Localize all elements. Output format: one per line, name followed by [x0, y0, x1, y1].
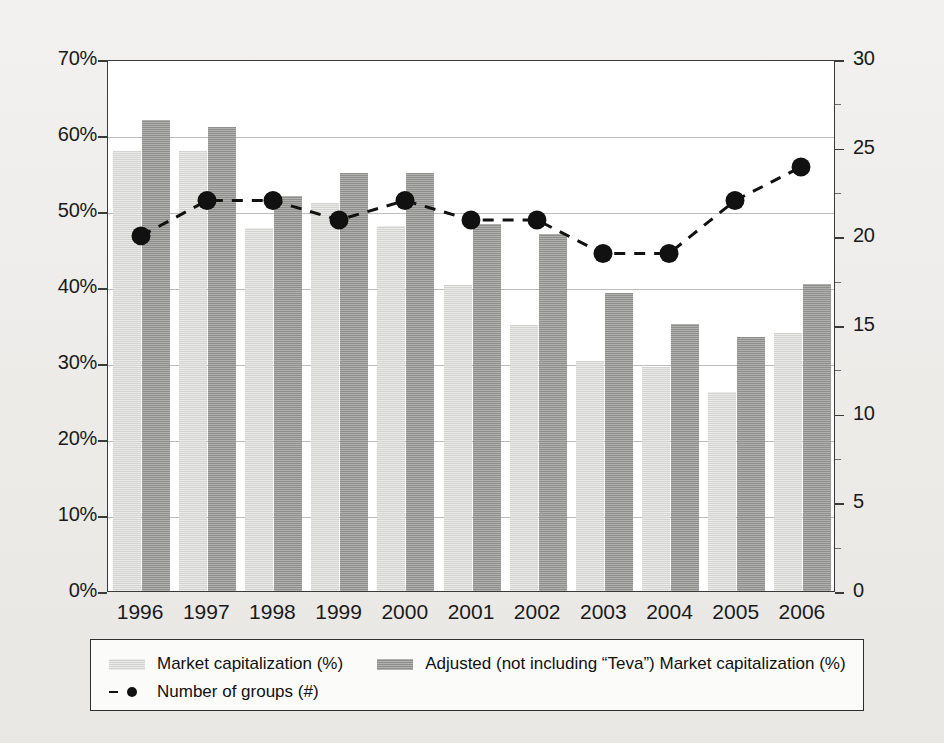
bar-1999-adjusted-market-cap — [340, 173, 368, 591]
right-axis-tick-mark — [835, 149, 844, 151]
legend-label-adjusted-market-capitalization: Adjusted (not including “Teva”) Market c… — [425, 654, 845, 674]
right-axis-minor-tick-mark — [835, 193, 841, 194]
legend-item-number-of-groups: Number of groups (#) — [109, 682, 319, 702]
bar-2003-market-cap — [576, 361, 604, 591]
line-marker-2005 — [726, 191, 745, 210]
bar-2000-adjusted-market-cap — [406, 173, 434, 591]
left-axis-tick-label: 30% — [11, 351, 97, 374]
line-marker-2004 — [660, 244, 679, 263]
x-axis-tick-label-1998: 1998 — [239, 600, 305, 624]
bar-1997-market-cap — [179, 151, 207, 591]
x-axis-tick-label-2003: 2003 — [570, 600, 636, 624]
bar-2003-adjusted-market-cap — [605, 293, 633, 591]
left-axis-tick-label: 10% — [11, 503, 97, 526]
right-axis-tick-mark — [835, 237, 844, 239]
chart-figure: 0%10%20%30%40%50%60%70% 051015202530 199… — [0, 0, 944, 743]
right-axis-tick-mark — [835, 592, 844, 594]
bar-2000-market-cap — [377, 226, 405, 591]
bar-2004-market-cap — [642, 367, 670, 591]
x-axis-tick-label-1997: 1997 — [173, 600, 239, 624]
bar-1997-adjusted-market-cap — [208, 127, 236, 591]
bar-1996-market-cap — [113, 151, 141, 591]
right-axis-tick-label: 15 — [853, 313, 913, 336]
bar-2005-market-cap — [708, 392, 736, 591]
right-axis-tick-label: 30 — [853, 47, 913, 70]
x-axis-tick-label-2006: 2006 — [769, 600, 835, 624]
x-axis-tick-label-2004: 2004 — [636, 600, 702, 624]
right-axis-minor-tick-mark — [835, 282, 841, 283]
left-axis-tick-label: 40% — [11, 275, 97, 298]
left-axis-tick-mark — [98, 592, 107, 594]
right-axis-tick-label: 10 — [853, 402, 913, 425]
right-axis-tick-label: 0 — [853, 579, 913, 602]
bar-2001-market-cap — [444, 285, 472, 591]
right-axis-tick-mark — [835, 415, 844, 417]
left-axis-tick-label: 70% — [11, 47, 97, 70]
bar-1999-market-cap — [311, 203, 339, 591]
left-axis-tick-mark — [98, 212, 107, 214]
right-axis-tick-mark — [835, 503, 844, 505]
right-axis-tick-label: 20 — [853, 224, 913, 247]
chart-legend: Market capitalization (%) Adjusted (not … — [90, 639, 864, 711]
right-axis-minor-tick-mark — [835, 459, 841, 460]
line-marker-2006 — [792, 158, 811, 177]
legend-label-number-of-groups: Number of groups (#) — [157, 682, 319, 702]
x-axis-tick-label-2001: 2001 — [438, 600, 504, 624]
x-axis-tick-label-1996: 1996 — [107, 600, 173, 624]
right-axis-tick-mark — [835, 60, 844, 62]
right-axis-tick-mark — [835, 326, 844, 328]
right-axis-tick-label: 5 — [853, 490, 913, 513]
left-axis-tick-mark — [98, 288, 107, 290]
bar-2006-adjusted-market-cap — [803, 284, 831, 591]
bar-2006-market-cap — [774, 333, 802, 591]
legend-dash-icon — [109, 691, 118, 693]
x-axis-tick-label-2000: 2000 — [372, 600, 438, 624]
left-axis-tick-mark — [98, 440, 107, 442]
bar-2005-adjusted-market-cap — [737, 337, 765, 591]
left-axis-tick-mark — [98, 516, 107, 518]
line-marker-2003 — [594, 244, 613, 263]
bar-2002-market-cap — [510, 325, 538, 591]
bar-light-swatch-icon — [109, 659, 145, 670]
legend-dot-icon — [127, 687, 137, 697]
right-axis-tick-label: 25 — [853, 136, 913, 159]
left-axis-tick-mark — [98, 60, 107, 62]
bar-1998-adjusted-market-cap — [274, 196, 302, 591]
bar-1998-market-cap — [245, 228, 273, 591]
left-axis-tick-label: 0% — [11, 579, 97, 602]
legend-row-1: Market capitalization (%) Adjusted (not … — [109, 650, 845, 678]
legend-item-adjusted-market-capitalization: Adjusted (not including “Teva”) Market c… — [377, 654, 845, 674]
right-axis-minor-tick-mark — [835, 548, 841, 549]
x-axis-tick-label-2002: 2002 — [504, 600, 570, 624]
line-path — [141, 167, 801, 254]
legend-row-2: Number of groups (#) — [109, 678, 845, 706]
bar-1996-adjusted-market-cap — [142, 120, 170, 591]
x-axis-tick-label-1999: 1999 — [306, 600, 372, 624]
dashed-line-with-dot-icon — [109, 686, 145, 698]
bar-2001-adjusted-market-cap — [473, 224, 501, 591]
bar-2002-adjusted-market-cap — [539, 234, 567, 591]
left-axis-tick-mark — [98, 136, 107, 138]
x-axis-tick-label-2005: 2005 — [703, 600, 769, 624]
left-axis-tick-label: 50% — [11, 199, 97, 222]
bar-2004-adjusted-market-cap — [671, 324, 699, 591]
right-axis-minor-tick-mark — [835, 370, 841, 371]
bar-dark-swatch-icon — [377, 659, 413, 670]
legend-item-market-capitalization: Market capitalization (%) — [109, 654, 343, 674]
left-axis-tick-label: 60% — [11, 123, 97, 146]
right-axis-minor-tick-mark — [835, 104, 841, 105]
left-axis-tick-label: 20% — [11, 427, 97, 450]
legend-label-market-capitalization: Market capitalization (%) — [157, 654, 343, 674]
left-axis-tick-mark — [98, 364, 107, 366]
plot-area — [107, 60, 835, 592]
